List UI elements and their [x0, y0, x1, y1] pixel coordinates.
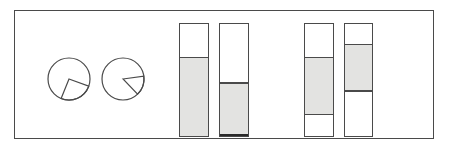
bar-segment-filled	[180, 57, 208, 137]
bar-segment-divider	[220, 82, 248, 83]
bar-segment-empty	[305, 24, 333, 57]
bar-segment-divider	[180, 57, 208, 58]
bar-segment-divider	[345, 44, 372, 45]
bar-segment-empty	[345, 90, 372, 137]
bar-segment-empty	[180, 24, 208, 57]
plot-frame	[14, 10, 434, 139]
bar-segment-divider	[305, 57, 333, 58]
bar-segment-filled	[345, 44, 372, 90]
bar-segment-divider	[345, 90, 372, 91]
bar-segment-empty	[220, 24, 248, 82]
pie-2[interactable]	[99, 55, 147, 103]
bar-segment-empty	[345, 24, 372, 44]
bar-2[interactable]	[219, 23, 249, 137]
pie-1[interactable]	[45, 55, 93, 103]
bar-3[interactable]	[304, 23, 334, 137]
bar-1[interactable]	[179, 23, 209, 137]
bar-segment-filled	[305, 57, 333, 114]
figure-root	[0, 0, 450, 152]
bar-segment-divider	[305, 114, 333, 115]
bar-segment-filled	[220, 82, 248, 137]
bar-segment-empty	[305, 114, 333, 137]
bar-4[interactable]	[344, 23, 373, 137]
